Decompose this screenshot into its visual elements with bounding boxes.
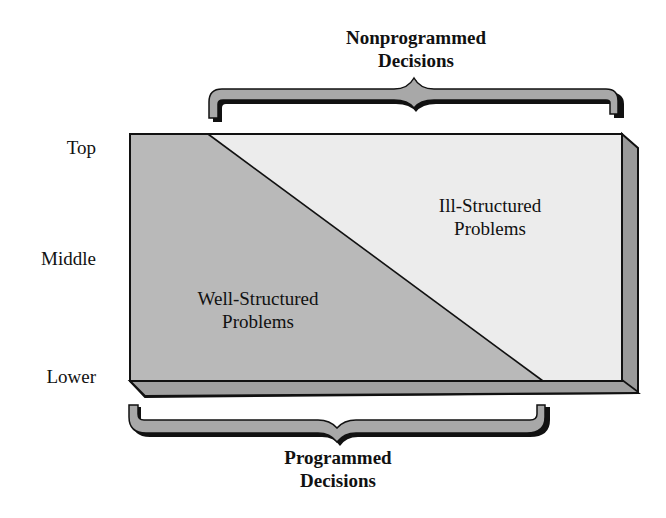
programmed-line1: Programmed	[238, 446, 438, 469]
level-label-lower: Lower	[0, 366, 96, 388]
top-brace	[209, 78, 618, 118]
nonprogrammed-line1: Nonprogrammed	[316, 26, 516, 49]
ill-structured-problems-label: Ill-Structured Problems	[380, 194, 600, 240]
programmed-decisions-label: Programmed Decisions	[238, 446, 438, 492]
ill-structured-line2: Problems	[380, 217, 600, 240]
well-structured-problems-label: Well-Structured Problems	[158, 287, 358, 333]
level-label-middle: Middle	[0, 248, 96, 270]
ill-structured-line1: Ill-Structured	[380, 194, 600, 217]
box-right-face	[622, 134, 638, 392]
programmed-line2: Decisions	[238, 469, 438, 492]
decision-structure-diagram	[0, 0, 666, 518]
level-label-top: Top	[0, 137, 96, 159]
nonprogrammed-line2: Decisions	[316, 49, 516, 72]
nonprogrammed-decisions-label: Nonprogrammed Decisions	[316, 26, 516, 72]
well-structured-line2: Problems	[158, 310, 358, 333]
well-structured-line1: Well-Structured	[158, 287, 358, 310]
